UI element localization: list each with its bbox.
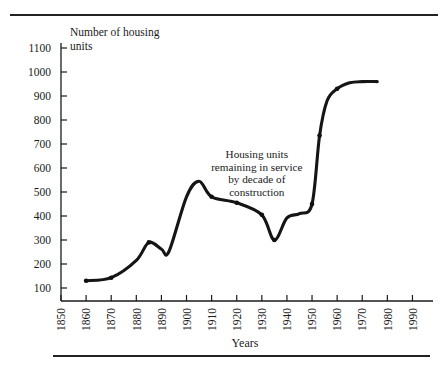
x-tick-label: 1890 bbox=[156, 308, 168, 331]
y-tick-label: 800 bbox=[34, 114, 52, 126]
annotation-line: remaining in service bbox=[211, 161, 302, 173]
y-tick-label: 300 bbox=[34, 234, 52, 246]
data-point-marker bbox=[260, 213, 265, 218]
x-tick-label: 1940 bbox=[281, 308, 293, 331]
y-tick-label: 1100 bbox=[28, 42, 51, 54]
x-tick-label: 1870 bbox=[105, 308, 117, 331]
x-tick-label: 1970 bbox=[356, 308, 368, 331]
y-tick-label: 100 bbox=[34, 282, 52, 294]
x-tick-label: 1990 bbox=[407, 308, 419, 331]
x-tick-label: 1900 bbox=[181, 308, 193, 331]
housing-units-line-chart: 10020030040050060070080090010001100 1850… bbox=[0, 0, 447, 369]
annotation-line: by decade of bbox=[228, 173, 285, 185]
x-tick-label: 1880 bbox=[131, 308, 143, 331]
y-tick-label: 400 bbox=[34, 210, 52, 222]
x-tick-label: 1920 bbox=[231, 308, 243, 331]
annotation-line: construction bbox=[229, 186, 285, 198]
y-axis: 10020030040050060070080090010001100 bbox=[28, 42, 67, 301]
y-tick-label: 1000 bbox=[28, 66, 51, 78]
y-axis-label-line1: Number of housing bbox=[70, 26, 160, 39]
y-tick-label: 200 bbox=[34, 258, 52, 270]
y-axis-label-line2: units bbox=[70, 40, 93, 52]
data-point-marker bbox=[234, 201, 239, 206]
x-axis-title: Years bbox=[232, 336, 259, 350]
data-point-marker bbox=[310, 202, 315, 207]
chart-annotation: Housing unitsremaining in serviceby deca… bbox=[211, 148, 302, 197]
y-tick-label: 900 bbox=[34, 90, 52, 102]
x-tick-label: 1930 bbox=[256, 308, 268, 331]
data-point-marker bbox=[209, 195, 214, 200]
y-axis-tick-labels: 10020030040050060070080090010001100 bbox=[28, 42, 51, 294]
x-tick-label: 1860 bbox=[80, 308, 92, 331]
data-point-markers bbox=[84, 87, 340, 284]
x-tick-label: 1950 bbox=[306, 308, 318, 331]
annotation-line: Housing units bbox=[226, 148, 288, 160]
x-tick-label: 1850 bbox=[55, 308, 67, 331]
x-tick-label: 1980 bbox=[382, 308, 394, 331]
data-point-marker bbox=[109, 275, 114, 280]
y-tick-label: 500 bbox=[34, 186, 52, 198]
data-point-marker bbox=[335, 87, 340, 92]
data-point-marker bbox=[84, 279, 89, 284]
data-point-marker bbox=[317, 133, 322, 138]
x-axis-tick-labels: 1850186018701880189019001910192019301940… bbox=[55, 308, 418, 331]
figure-container: 10020030040050060070080090010001100 1850… bbox=[0, 0, 447, 369]
data-point-marker bbox=[147, 240, 152, 245]
x-axis-tick-marks bbox=[61, 295, 412, 301]
y-tick-label: 700 bbox=[34, 138, 52, 150]
y-axis-tick-marks bbox=[61, 48, 67, 288]
x-tick-label: 1910 bbox=[206, 308, 218, 331]
data-point-marker bbox=[272, 238, 277, 243]
y-tick-label: 600 bbox=[34, 162, 52, 174]
x-tick-label: 1960 bbox=[331, 308, 343, 331]
x-axis: 1850186018701880189019001910192019301940… bbox=[55, 295, 433, 331]
